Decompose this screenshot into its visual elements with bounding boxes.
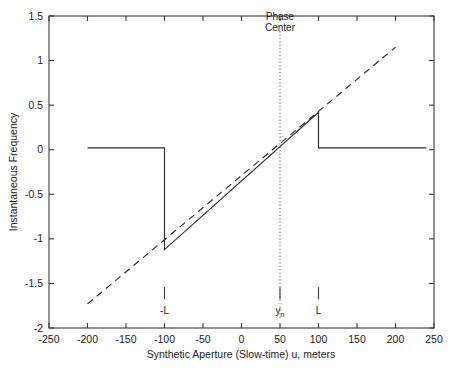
x-tick-label: 250 — [425, 333, 443, 345]
x-tick-label: -150 — [115, 333, 136, 345]
instantaneous-frequency-unwrapped — [88, 47, 396, 304]
instantaneous-frequency-chart: -250-200-150-100-50050100150200250 1.510… — [0, 0, 456, 373]
phase-center-label-line1: Phase — [266, 11, 295, 22]
x-tick-label: -100 — [154, 333, 175, 345]
x-tick-label: 150 — [348, 333, 366, 345]
y-tick-label: 1 — [37, 54, 43, 66]
y-tick-label: -2 — [34, 322, 43, 334]
y-axis-tick-labels: 1.510.50-0.5-1-1.5-2 — [25, 10, 43, 334]
x-tick-label: -250 — [38, 333, 59, 345]
phase-center-marker-label: yn — [276, 305, 285, 318]
x-axis-tick-labels: -250-200-150-100-50050100150200250 — [38, 333, 442, 345]
x-tick-label: 50 — [274, 333, 286, 345]
aperture-end-marker-label: L — [316, 305, 322, 316]
instantaneous-frequency-wrapped — [88, 112, 427, 249]
phase-center-label-line2: Center — [265, 22, 296, 33]
y-tick-label: 1.5 — [28, 10, 43, 22]
y-tick-label: 0.5 — [28, 99, 43, 111]
y-tick-label: 0 — [37, 143, 43, 155]
aperture-markers-group: -LynL — [160, 287, 322, 318]
x-tick-label: 100 — [310, 333, 328, 345]
y-tick-label: -1.5 — [25, 277, 43, 289]
y-tick-label: -1 — [34, 232, 43, 244]
y-axis-title: Instantaneous Frequency — [7, 112, 19, 231]
data-series-group — [88, 47, 427, 304]
x-axis-title: Synthetic Aperture (Slow-time) u, meters — [147, 348, 335, 360]
aperture-start-marker-label: -L — [160, 305, 169, 316]
figure-container: -250-200-150-100-50050100150200250 1.510… — [0, 0, 456, 373]
y-tick-label: -0.5 — [25, 188, 43, 200]
x-tick-label: 0 — [239, 333, 245, 345]
x-tick-label: 200 — [387, 333, 405, 345]
x-tick-label: -200 — [77, 333, 98, 345]
x-tick-label: -50 — [195, 333, 210, 345]
